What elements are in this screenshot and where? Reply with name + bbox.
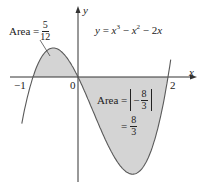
- area-left-label: Area = 5 12: [9, 20, 51, 42]
- equation-lhs: y: [95, 24, 100, 36]
- figure: y x −1 0 2 y = x3 − x2 − 2x Area = 5 12 …: [0, 0, 200, 193]
- area-right-label: Area = − 8 3: [97, 89, 152, 111]
- equation-label: y = x3 − x2 − 2x: [95, 24, 162, 36]
- y-axis-label: y: [83, 5, 88, 16]
- absolute-value: − 8 3: [130, 89, 151, 111]
- shaded-region-left: [33, 48, 78, 77]
- area-right-result: = 8 3: [121, 115, 138, 137]
- y-axis-arrow-icon: [76, 6, 81, 13]
- area-left-fraction: 5 12: [40, 20, 50, 42]
- tick-label-neg-one: −1: [14, 80, 26, 91]
- tick-label-zero: 0: [70, 80, 76, 91]
- tick-label-two: 2: [170, 80, 176, 91]
- x-axis-label: x: [189, 67, 194, 78]
